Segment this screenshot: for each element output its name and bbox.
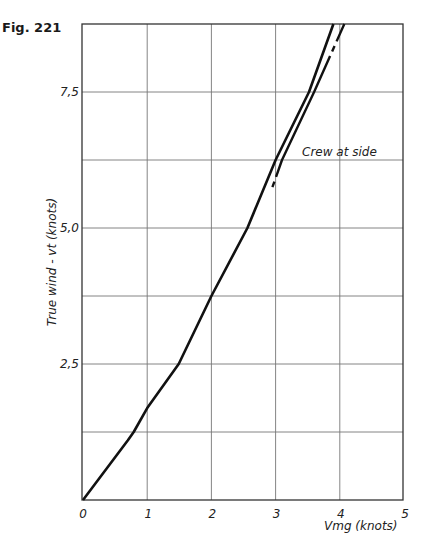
y-tick-label: 7,5 [60,85,79,99]
crew-at-side-curve [272,24,344,187]
x-tick-label: 2 [209,507,217,521]
grid-lines [82,24,403,500]
x-tick-label: 5 [401,507,409,521]
chart: 012345 2,55,07,5 Vmg (knots) True wind -… [0,0,427,552]
y-tick-label: 5,0 [60,221,79,235]
crew-at-side-label: Crew at side [302,145,377,159]
main-curve [83,24,333,500]
x-tick-label: 1 [144,507,152,521]
y-axis-ticks: 2,55,07,5 [60,85,79,371]
plot-frame [82,24,403,500]
data-series [83,24,344,500]
x-tick-label: 0 [79,507,87,521]
x-axis-title: Vmg (knots) [324,519,398,533]
x-tick-label: 3 [273,507,281,521]
y-tick-label: 2,5 [60,357,79,371]
y-axis-title: True wind - vt (knots) [45,198,59,326]
